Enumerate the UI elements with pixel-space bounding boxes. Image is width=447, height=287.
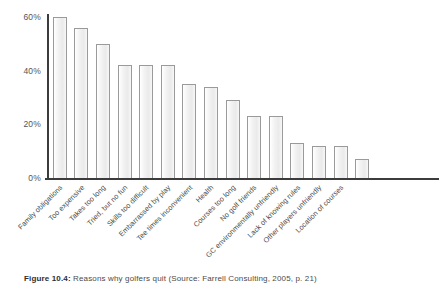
bar bbox=[355, 159, 369, 178]
bar bbox=[182, 84, 196, 178]
bar-slot bbox=[287, 10, 309, 178]
bar bbox=[247, 116, 261, 178]
bar bbox=[290, 143, 304, 178]
figure-caption: Figure 10.4: Reasons why golfers quit (S… bbox=[24, 274, 444, 283]
x-label-slot bbox=[351, 181, 373, 267]
bar-slot bbox=[71, 10, 93, 178]
bar-slot bbox=[243, 10, 265, 178]
y-axis-tick-20: 20% bbox=[23, 119, 41, 129]
bar-slot bbox=[49, 10, 71, 178]
y-axis-tick-40: 40% bbox=[23, 66, 41, 76]
bar-slot bbox=[114, 10, 136, 178]
bar-series bbox=[49, 10, 439, 178]
bar-slot bbox=[330, 10, 352, 178]
bar bbox=[226, 100, 240, 178]
x-label-slot: Location of courses bbox=[330, 181, 352, 267]
bar bbox=[312, 146, 326, 178]
figure-container: 0%20%40%60% Family obligationsToo expens… bbox=[0, 0, 447, 287]
bar bbox=[139, 65, 153, 178]
bar-slot bbox=[308, 10, 330, 178]
bar-slot bbox=[135, 10, 157, 178]
bar bbox=[118, 65, 132, 178]
x-axis-line bbox=[45, 178, 439, 180]
figure-caption-text: Reasons why golfers quit (Source: Farrel… bbox=[71, 274, 317, 283]
bar bbox=[204, 87, 218, 178]
y-axis-tick-0: 0% bbox=[28, 173, 41, 183]
figure-number: Figure 10.4: bbox=[24, 274, 71, 283]
chart-plot-area: 0%20%40%60% bbox=[47, 10, 439, 180]
bar-slot bbox=[179, 10, 201, 178]
bar bbox=[334, 146, 348, 178]
bar bbox=[161, 65, 175, 178]
bar-slot bbox=[351, 10, 373, 178]
x-axis-category-labels: Family obligationsToo expensiveTakes too… bbox=[47, 181, 439, 267]
bar-slot bbox=[157, 10, 179, 178]
bar-slot bbox=[92, 10, 114, 178]
bar bbox=[74, 28, 88, 178]
bar bbox=[53, 17, 67, 178]
bar-slot bbox=[265, 10, 287, 178]
bar-slot bbox=[222, 10, 244, 178]
bar-slot bbox=[200, 10, 222, 178]
bar bbox=[269, 116, 283, 178]
bar bbox=[96, 44, 110, 178]
y-axis-tick-60: 60% bbox=[23, 12, 41, 22]
